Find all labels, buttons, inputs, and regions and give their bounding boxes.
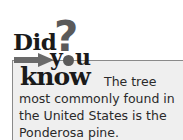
heading-know: know <box>20 64 90 89</box>
fact-text-line-2: most commonly found in <box>19 92 175 106</box>
fact-text-line-4: Ponderosa pine. <box>19 126 119 140</box>
fact-text-line-3: the United States is the <box>19 109 167 123</box>
fact-text-line-1: The tree <box>104 75 156 89</box>
